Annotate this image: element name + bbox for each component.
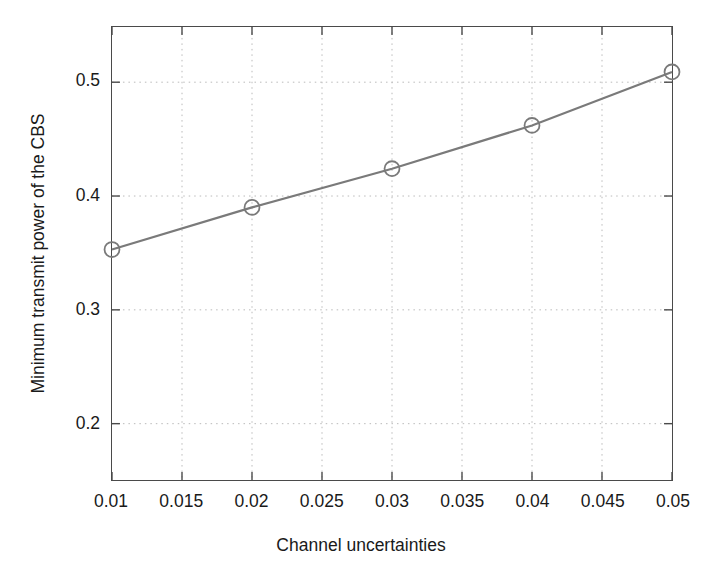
y-tick-label: 0.5 bbox=[56, 73, 100, 91]
y-tick-label: 0.4 bbox=[56, 187, 100, 205]
data-series-line bbox=[112, 27, 672, 480]
x-tick-label: 0.015 bbox=[159, 493, 203, 511]
chart-figure: Minimum transmit power of the CBS 0.010.… bbox=[0, 0, 722, 577]
y-tick-label: 0.3 bbox=[56, 301, 100, 319]
x-tick-label: 0.03 bbox=[375, 493, 409, 511]
x-tick-label: 0.025 bbox=[300, 493, 344, 511]
x-tick-label: 0.01 bbox=[94, 493, 128, 511]
x-tick-label: 0.035 bbox=[440, 493, 484, 511]
y-tick-label: 0.2 bbox=[56, 416, 100, 434]
plot-area bbox=[111, 26, 673, 481]
y-axis-title: Minimum transmit power of the CBS bbox=[28, 26, 54, 481]
x-axis-title: Channel uncertainties bbox=[0, 535, 722, 556]
x-tick-label: 0.05 bbox=[656, 493, 690, 511]
x-tick-label: 0.045 bbox=[581, 493, 625, 511]
x-tick-label: 0.04 bbox=[515, 493, 549, 511]
x-tick-label: 0.02 bbox=[234, 493, 268, 511]
